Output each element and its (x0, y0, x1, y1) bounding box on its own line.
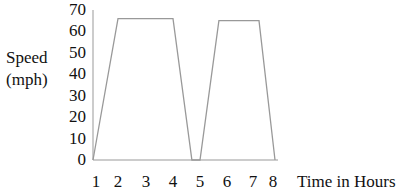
y-axis-label-line1: Speed (6, 49, 48, 66)
x-tick-label: 4 (166, 173, 180, 190)
x-tick-label: 6 (220, 173, 234, 190)
y-axis-label-line2: (mph) (6, 71, 48, 88)
y-tick-label: 70 (56, 1, 86, 18)
y-tick-label: 0 (56, 151, 86, 168)
y-tick-label: 40 (56, 65, 86, 82)
y-tick-label: 10 (56, 130, 86, 147)
x-tick-label: 7 (246, 173, 260, 190)
y-tick-label: 60 (56, 22, 86, 39)
y-tick-label: 50 (56, 44, 86, 61)
y-tick-label: 20 (56, 108, 86, 125)
x-tick-label: 3 (139, 173, 153, 190)
speed-line (93, 19, 275, 160)
x-tick-label: 2 (111, 173, 125, 190)
x-axis-label: Time in Hours (297, 173, 396, 190)
x-tick-label: 5 (193, 173, 207, 190)
y-tick-label: 30 (56, 87, 86, 104)
x-tick-label: 8 (266, 173, 280, 190)
x-tick-label: 1 (89, 173, 103, 190)
